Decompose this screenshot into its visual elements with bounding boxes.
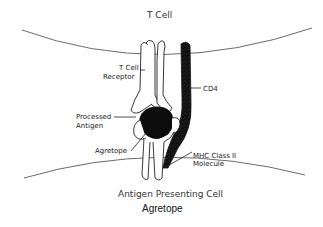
mhc-alpha-stalk bbox=[142, 138, 150, 180]
tcr-label-line1: T Cell bbox=[119, 64, 139, 72]
tcr-label-line2: Receptor bbox=[103, 73, 134, 81]
mhc-label-line2: Molecule bbox=[193, 160, 224, 168]
antigen-label-line2: Antigen bbox=[76, 122, 103, 130]
mhc-label-line1: MHC Class II bbox=[193, 152, 236, 160]
processed-antigen bbox=[140, 107, 173, 139]
apc-label: Antigen Presenting Cell bbox=[118, 189, 223, 199]
t-cell-membrane bbox=[22, 28, 312, 55]
cd4-label: CD4 bbox=[203, 85, 218, 93]
tcr-right-chain bbox=[157, 41, 172, 112]
antigen-label-line1: Processed bbox=[76, 113, 111, 121]
agretope-label: Agretope bbox=[95, 147, 127, 155]
t-cell-label: T Cell bbox=[147, 10, 172, 20]
figure-caption: Agretope bbox=[142, 203, 183, 214]
